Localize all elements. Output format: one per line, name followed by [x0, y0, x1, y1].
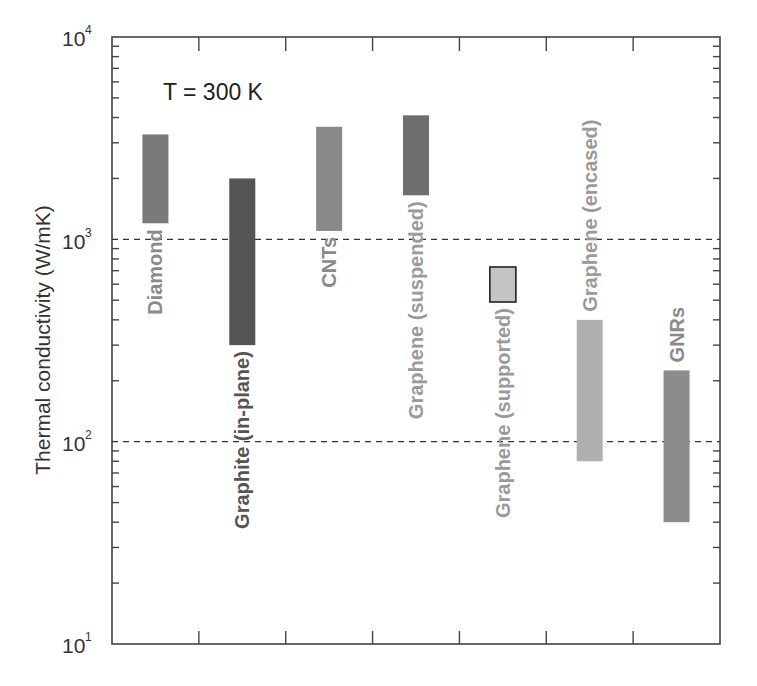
- bar-label: GNRs: [666, 307, 688, 363]
- svg-text:10: 10: [62, 230, 85, 253]
- y-tick-label-10: 10 1: [62, 630, 92, 657]
- bar-label: Graphite (in-plane): [231, 351, 253, 529]
- bar-label: Graphene (suspended): [405, 201, 427, 419]
- thermal-conductivity-chart: DiamondGraphite (in-plane)CNTsGraphene (…: [0, 0, 757, 686]
- svg-text:1: 1: [85, 630, 92, 644]
- svg-text:2: 2: [85, 428, 92, 442]
- y-tick-label-100: 10 2: [62, 428, 92, 455]
- bar-graphite-in-plane: [229, 178, 255, 345]
- bar-graphene-suspended: [403, 115, 429, 195]
- bar-label: CNTs: [318, 237, 340, 288]
- svg-text:4: 4: [85, 23, 92, 37]
- svg-text:10: 10: [62, 634, 85, 657]
- temperature-annotation: T = 300 K: [163, 79, 264, 105]
- y-tick-label-1000: 10 3: [62, 226, 92, 253]
- svg-text:10: 10: [62, 27, 85, 50]
- svg-text:3: 3: [85, 226, 92, 240]
- y-axis-title: Thermal conductivity (W/mK): [31, 205, 54, 475]
- bar-label: Diamond: [144, 229, 166, 315]
- svg-text:10: 10: [62, 432, 85, 455]
- bar-gnrs: [664, 370, 690, 522]
- bar-label: Graphene (supported): [492, 308, 514, 518]
- bar-graphene-supported: [490, 267, 516, 302]
- y-tick-label-10000: 10 4: [62, 23, 92, 50]
- bar-graphene-encased: [577, 320, 603, 461]
- bar-cnts: [316, 127, 342, 231]
- bar-label: Graphene (encased): [579, 120, 601, 312]
- bar-diamond: [142, 134, 168, 223]
